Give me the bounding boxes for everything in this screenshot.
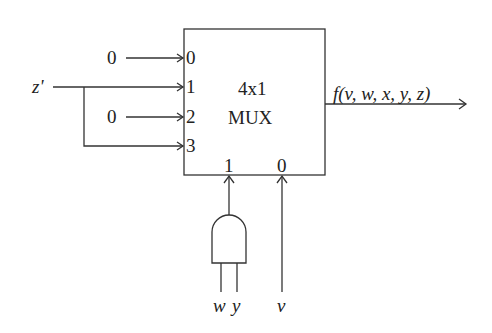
mux-pin-3-label: 3	[186, 136, 196, 155]
and-input-y-label: y	[232, 296, 240, 315]
mux-select-0-label: 0	[277, 156, 287, 175]
mux-pin-1-label: 1	[186, 77, 196, 96]
input-0-value: 0	[107, 48, 117, 67]
and-gate-icon	[212, 215, 246, 263]
mux-title-size: 4x1	[238, 79, 267, 98]
and-input-w-label: w	[213, 296, 226, 315]
mux-select-1-label: 1	[224, 156, 234, 175]
mux-title-name: MUX	[228, 108, 272, 127]
output-function-label: f(v, w, x, y, z)	[333, 84, 430, 103]
mux-pin-0-label: 0	[186, 48, 196, 67]
input-1-signal: z'	[32, 77, 43, 96]
input-2-value: 0	[107, 107, 117, 126]
mux-block	[184, 29, 325, 175]
circuit-diagram	[0, 0, 492, 333]
select-0-input-label: v	[277, 296, 285, 315]
mux-pin-2-label: 2	[186, 107, 196, 126]
